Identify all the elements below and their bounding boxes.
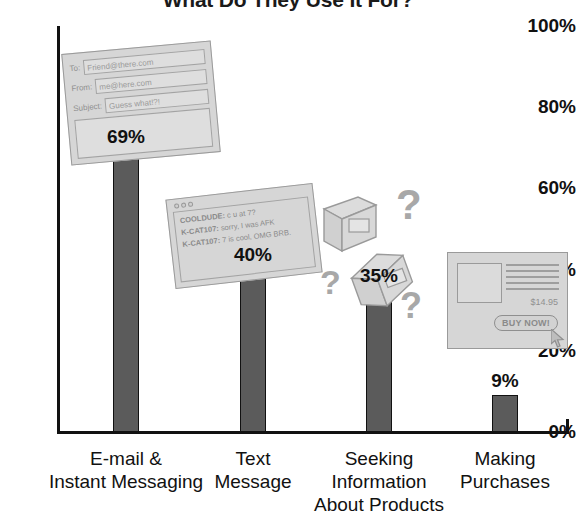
x-axis-label-seeking-information: Seeking Information About Products (314, 447, 444, 517)
window-dot-icon (174, 203, 180, 209)
chat-message: c u at 7? (227, 208, 257, 220)
label-line: Making (460, 447, 550, 470)
label-line: About Products (314, 493, 444, 516)
shopping-illustration: $14.95 BUY NOW! (447, 252, 568, 349)
label-line: Information (314, 470, 444, 493)
label-line: Message (214, 470, 291, 493)
x-axis-label-text-message: Text Message (214, 447, 291, 493)
bar-making-purchases (492, 395, 518, 432)
email-to-label: To: (69, 63, 80, 73)
text-line (506, 270, 559, 272)
y-axis-line (57, 26, 60, 434)
email-from-label: From: (71, 82, 93, 93)
y-axis-tick-80: 80% (524, 96, 576, 118)
chat-username: K-CAT107: (182, 236, 221, 249)
x-axis-label-email: E-mail & Instant Messaging (49, 447, 203, 493)
product-description-lines (506, 264, 559, 294)
label-line: Seeking (314, 447, 444, 470)
email-subject-label: Subject: (73, 102, 103, 114)
product-box-svg (322, 195, 378, 253)
bar-value-label: 9% (491, 370, 518, 392)
text-line (506, 276, 559, 278)
bar-value-label: 69% (107, 126, 145, 148)
window-dot-icon (181, 202, 187, 208)
y-axis-tick-100: 100% (524, 15, 576, 37)
y-axis-tick-60: 60% (524, 177, 576, 199)
label-line: Instant Messaging (49, 470, 203, 493)
question-mark-icon: ? (396, 184, 422, 226)
product-box-icon (322, 195, 378, 253)
x-axis-end-tick (566, 419, 569, 433)
product-price: $14.95 (530, 297, 558, 307)
label-line: Purchases (460, 470, 550, 493)
x-axis-label-making-purchases: Making Purchases (460, 447, 550, 493)
text-line (506, 264, 559, 266)
text-line (506, 282, 559, 284)
bar-value-label: 40% (234, 244, 272, 266)
bar-value-label: 35% (360, 265, 398, 287)
chat-username: K-CAT107: (181, 224, 220, 237)
product-image-placeholder (457, 263, 502, 303)
text-line (506, 288, 559, 290)
chart-container: What Do They Use It For? 100% 80% 60% 40… (0, 0, 576, 520)
question-mark-icon: ? (320, 265, 341, 299)
bar-email-instant-messaging (113, 151, 139, 432)
chat-transcript: COOLDUDE: c u at 7? K-CAT107: sorry, I w… (173, 197, 316, 283)
chat-illustration: COOLDUDE: c u at 7? K-CAT107: sorry, I w… (165, 183, 322, 289)
label-line: Text (214, 447, 291, 470)
label-line: E-mail & (49, 447, 203, 470)
chart-title: What Do They Use It For? (0, 0, 576, 12)
window-controls (174, 202, 193, 209)
window-dot-icon (188, 202, 194, 208)
bar-text-message (240, 269, 266, 432)
buy-now-button: BUY NOW! (494, 315, 558, 331)
